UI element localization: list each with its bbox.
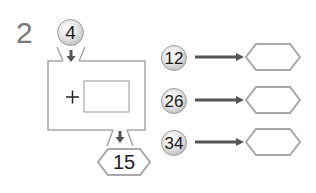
row-arrow-icon (195, 53, 244, 61)
row-input-value: 26 (165, 93, 184, 110)
plus-icon (66, 91, 79, 104)
row-input-circle: 12 (161, 45, 187, 71)
row-input-value: 12 (165, 50, 184, 67)
row-input-circle: 26 (161, 88, 187, 114)
operand-field[interactable] (85, 82, 128, 111)
row-arrow-icon (195, 96, 244, 104)
answer-field[interactable] (250, 45, 296, 69)
machine-output-value: 15 (98, 150, 150, 175)
answer-field[interactable] (250, 88, 296, 112)
down-arrow-icon (67, 50, 76, 62)
machine-input-circle: 4 (57, 19, 84, 46)
down-arrow-icon (116, 131, 125, 143)
row-input-circle: 34 (161, 130, 187, 156)
row-arrow-icon (195, 138, 244, 146)
machine-input-value: 4 (65, 23, 76, 42)
row-input-value: 34 (165, 135, 184, 152)
answer-field[interactable] (250, 130, 296, 154)
